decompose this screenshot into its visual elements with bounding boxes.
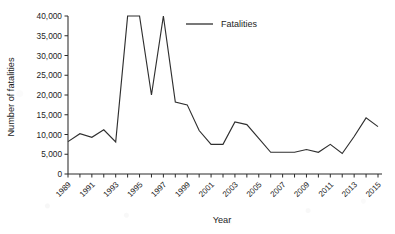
y-tick-label: 5,000: [41, 149, 62, 159]
x-tick-label: 1999: [173, 180, 192, 199]
y-tick-label: 35,000: [37, 31, 63, 41]
chart-svg: Number of fatalities Year 05,00010,00015…: [0, 0, 395, 234]
fatalities-line: [68, 16, 378, 153]
y-tick-label: 40,000: [37, 11, 63, 21]
x-tick-label: 2001: [197, 180, 216, 199]
line-chart-figure: Number of fatalities Year 05,00010,00015…: [0, 0, 395, 234]
y-tick-label: 0: [57, 169, 62, 179]
y-tick-label: 20,000: [37, 90, 63, 100]
y-tick-label: 15,000: [37, 110, 63, 120]
x-tick-label: 1989: [54, 180, 73, 199]
x-tick-label: 1995: [126, 180, 145, 199]
y-axis-labels: 05,00010,00015,00020,00025,00030,00035,0…: [37, 11, 63, 179]
y-tick-label: 25,000: [37, 70, 63, 80]
x-tick-label: 1991: [78, 180, 97, 199]
legend-label-fatalities: Fatalities: [221, 19, 258, 29]
x-tick-label: 2011: [317, 180, 336, 199]
x-axis-title: Year: [213, 215, 232, 225]
x-tick-label: 2013: [340, 180, 359, 199]
y-tick-label: 30,000: [37, 51, 63, 61]
x-axis-labels: 1989199119931995199719992001200320052007…: [54, 180, 383, 199]
x-tick-label: 1997: [149, 180, 168, 199]
x-tick-label: 2015: [364, 180, 383, 199]
x-tick-label: 2009: [292, 180, 311, 199]
x-tick-label: 2005: [245, 180, 264, 199]
x-tick-label: 1993: [102, 180, 121, 199]
x-tick-label: 2007: [269, 180, 288, 199]
y-axis-title: Number of fatalities: [6, 57, 16, 137]
y-tick-label: 10,000: [37, 130, 63, 140]
x-tick-label: 2003: [221, 180, 240, 199]
chart-legend: Fatalities: [186, 19, 258, 29]
